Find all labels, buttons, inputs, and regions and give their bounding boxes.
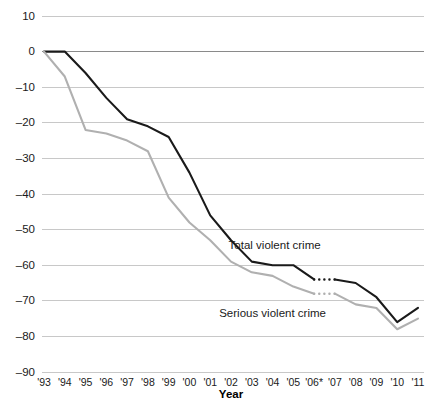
x-axis-tick-label: '11 xyxy=(412,376,425,388)
x-axis-tick-label: '10 xyxy=(390,376,404,388)
y-axis-tick-label: –40 xyxy=(16,188,35,200)
y-axis-tick-labels: 100–10–20–30–40–50–60–70–80–90 xyxy=(16,10,35,378)
x-axis-tick-labels: '93'94'95'96'97'98'99'00'01'02'03'04'05'… xyxy=(37,376,424,388)
x-axis-tick-label: '09 xyxy=(370,376,384,388)
x-axis-tick-label: '96 xyxy=(99,376,113,388)
series-label-1: Total violent crime xyxy=(229,239,321,251)
x-axis-tick-label: '04 xyxy=(266,376,280,388)
x-axis-tick-label: '07 xyxy=(328,376,342,388)
x-axis-title: Year xyxy=(219,388,244,400)
x-axis-tick-label: '02 xyxy=(224,376,238,388)
series-line-2 xyxy=(44,52,314,294)
x-axis-tick-label: '95 xyxy=(79,376,93,388)
y-axis-tick-label: –60 xyxy=(16,259,35,271)
x-axis-tick-label: '01 xyxy=(203,376,217,388)
chart-canvas: 100–10–20–30–40–50–60–70–80–90 '93'94'95… xyxy=(0,0,432,406)
y-axis-tick-label: –10 xyxy=(16,81,35,93)
x-axis-tick-label: '98 xyxy=(141,376,155,388)
y-axis-tick-label: –50 xyxy=(16,223,35,235)
violent-crime-trend-chart: 100–10–20–30–40–50–60–70–80–90 '93'94'95… xyxy=(0,0,432,406)
series-inline-labels: Total violent crimeSerious violent crime xyxy=(219,239,326,319)
x-axis-tick-label: '99 xyxy=(162,376,176,388)
y-axis-tick-label: –70 xyxy=(16,294,35,306)
x-axis-tick-label: '05 xyxy=(286,376,300,388)
x-axis-tick-label: '00 xyxy=(183,376,197,388)
series-lines-group xyxy=(44,52,418,330)
series-label-2: Serious violent crime xyxy=(219,307,326,319)
x-axis-tick-label: '03 xyxy=(245,376,259,388)
y-axis-tick-label: –20 xyxy=(16,116,35,128)
x-axis-tick-label: '93 xyxy=(37,376,51,388)
y-axis-tick-label: –30 xyxy=(16,152,35,164)
y-axis-tick-label: –90 xyxy=(16,366,35,378)
x-axis-tick-label: '06* xyxy=(305,376,323,388)
x-axis-tick-label: '97 xyxy=(120,376,134,388)
x-axis-tick-label: '08 xyxy=(349,376,363,388)
x-axis-tick-label: '94 xyxy=(58,376,72,388)
y-axis-tick-label: 0 xyxy=(29,45,35,57)
y-axis-tick-label: –80 xyxy=(16,330,35,342)
series-line-2 xyxy=(335,294,418,330)
y-axis-tick-label: 10 xyxy=(22,10,35,22)
